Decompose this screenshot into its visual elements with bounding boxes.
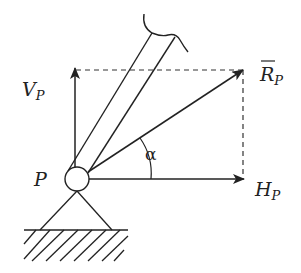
ground-hatching <box>24 230 128 261</box>
force-diagram: VP RP α P HP <box>0 0 301 273</box>
triangular-support <box>40 191 112 230</box>
pin-joint <box>65 167 89 191</box>
resultant-force-label: RP <box>259 61 283 88</box>
vertical-force-label: VP <box>22 78 45 103</box>
svg-text:RP: RP <box>259 63 283 88</box>
resultant-arrow <box>88 70 243 172</box>
pin-label: P <box>33 168 48 190</box>
angle-label: α <box>145 144 157 164</box>
beam-member <box>68 14 188 173</box>
horizontal-force-label: HP <box>254 178 281 203</box>
